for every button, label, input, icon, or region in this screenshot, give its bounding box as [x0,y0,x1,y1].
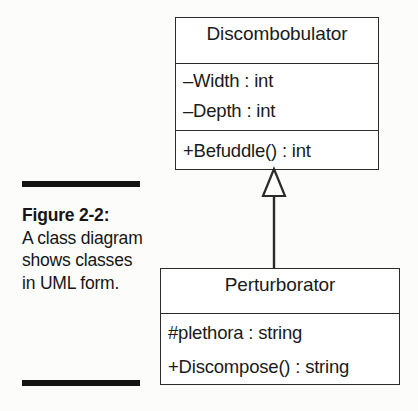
caption-rule-top [22,181,140,187]
caption-text: Figure 2-2: A class diagram shows classe… [22,204,144,294]
class-name: Discombobulator [183,20,371,47]
class-attributes-compartment: –Width : int –Depth : int [176,63,378,130]
figure-caption: Figure 2-2: A class diagram shows classe… [22,181,144,294]
class-attribute: –Width : int [183,66,371,96]
caption-label: Figure 2-2: [22,204,144,227]
figure-page: Figure 2-2: A class diagram shows classe… [0,0,418,411]
class-name: Perturborator [168,271,392,298]
hollow-triangle-arrowhead-icon [263,169,285,196]
caption-body: A class diagram shows classes in UML for… [22,227,144,295]
caption-rule-bottom [22,380,140,386]
class-operation: +Discompose() : string [168,350,392,384]
uml-class-discombobulator: Discombobulator –Width : int –Depth : in… [175,17,379,170]
class-members-compartment: #plethora : string +Discompose() : strin… [161,313,399,386]
class-attribute: –Depth : int [183,96,371,126]
generalization-connector [252,160,296,276]
class-name-compartment: Perturborator [161,269,399,313]
class-name-compartment: Discombobulator [176,18,378,63]
uml-class-perturborator: Perturborator #plethora : string +Discom… [160,268,400,385]
class-attribute: #plethora : string [168,316,392,350]
